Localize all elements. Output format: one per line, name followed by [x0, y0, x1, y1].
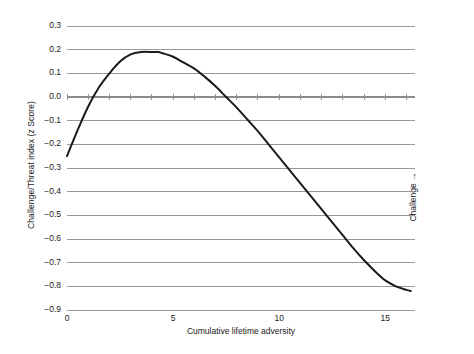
chart-figure: Challenge/Threat index (z Score) Challen… [0, 0, 474, 354]
y-tick-label: 0.1 [27, 68, 61, 77]
gridlines [67, 26, 415, 310]
x-tick-label: 0 [52, 314, 82, 323]
data-curves [67, 52, 411, 291]
y-tick-label: −0.2 [27, 139, 61, 148]
y-tick-label: 0.2 [27, 45, 61, 54]
y-tick-label: −0.9 [27, 305, 61, 314]
y-tick-label: −0.4 [27, 187, 61, 196]
y-tick-label: −0.8 [27, 281, 61, 290]
y-tick-label: 0.0 [27, 92, 61, 101]
x-tick-label: 10 [264, 314, 294, 323]
y-tick-label: −0.5 [27, 210, 61, 219]
y-tick-label: 0.3 [27, 21, 61, 30]
x-tick-label: 15 [370, 314, 400, 323]
y-tick-label: −0.1 [27, 116, 61, 125]
y-tick-label: −0.3 [27, 163, 61, 172]
plot-area [0, 0, 474, 354]
y-tick-label: −0.6 [27, 234, 61, 243]
curve-line [67, 52, 411, 291]
x-tick-label: 5 [158, 314, 188, 323]
y-tick-label: −0.7 [27, 258, 61, 267]
